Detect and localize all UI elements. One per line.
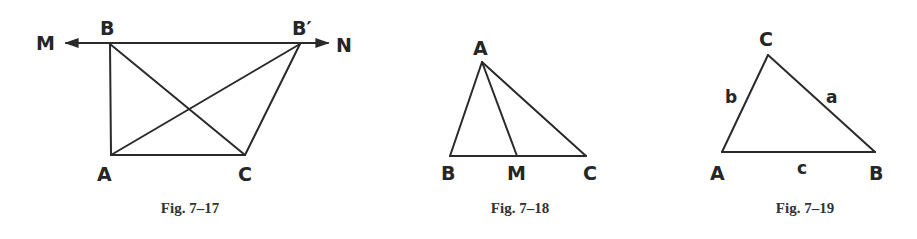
- segment-ba: [110, 44, 111, 155]
- segment-am: [482, 62, 517, 156]
- caption-fig-7-19: Fig. 7–19: [776, 200, 834, 216]
- label-c: C: [583, 162, 597, 184]
- segment-ac: [482, 62, 586, 156]
- figure-7-17: M B B′ N A C Fig. 7–17: [36, 17, 352, 216]
- label-b: B: [100, 17, 114, 39]
- figures-canvas: M B B′ N A C Fig. 7–17 A B M C Fig. 7–18…: [0, 0, 917, 239]
- side-a: [768, 55, 875, 152]
- label-side-c: c: [797, 158, 807, 178]
- label-side-a: a: [826, 87, 837, 107]
- label-side-b: b: [725, 87, 737, 107]
- label-c: C: [238, 163, 252, 185]
- figure-7-19: C A B b a c Fig. 7–19: [710, 28, 883, 216]
- label-m: M: [36, 32, 55, 54]
- segment-bc: [110, 44, 245, 155]
- label-m: M: [507, 162, 526, 184]
- label-a: A: [473, 37, 488, 59]
- label-a-vertex: A: [710, 162, 725, 184]
- label-b-vertex: B: [869, 162, 883, 184]
- label-n: N: [336, 34, 352, 56]
- caption-fig-7-17: Fig. 7–17: [161, 200, 220, 216]
- label-b-prime: B′: [292, 17, 312, 39]
- label-a: A: [97, 163, 112, 185]
- label-c-vertex: C: [759, 28, 773, 50]
- label-b: B: [441, 162, 455, 184]
- segment-ab: [450, 62, 482, 156]
- figure-7-18: A B M C Fig. 7–18: [441, 37, 597, 216]
- caption-fig-7-18: Fig. 7–18: [491, 200, 549, 216]
